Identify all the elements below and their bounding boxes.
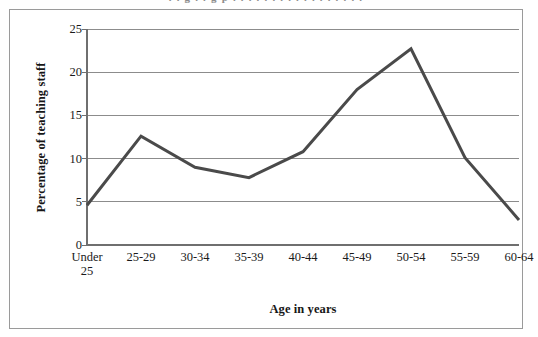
plot-area: [87, 29, 519, 245]
x-axis-tick-labels: Under 2525-2930-3435-3940-4445-4950-5455…: [87, 250, 519, 292]
y-axis-title: Percentage of teaching staff: [32, 29, 50, 245]
x-tick-label: 35-39: [220, 250, 278, 264]
y-tick-label: 20: [58, 66, 82, 79]
y-tick-label: 5: [58, 195, 82, 208]
cropped-chart-title-text: . . g . . g p . . . . . . . . . . . . . …: [0, 0, 532, 3]
x-axis-title: Age in years: [87, 302, 519, 317]
data-series-line: [87, 29, 519, 245]
y-tick-label: 15: [58, 109, 82, 122]
x-tick-label: 40-44: [274, 250, 332, 264]
chart-frame: Percentage of teaching staff 0510152025 …: [9, 9, 523, 329]
y-tick-label: 10: [58, 152, 82, 165]
cropped-chart-title: . . g . . g p . . . . . . . . . . . . . …: [0, 0, 532, 7]
x-tick-label: 60-64: [490, 250, 538, 264]
x-tick-label: 25-29: [112, 250, 170, 264]
x-tick-label: 30-34: [166, 250, 224, 264]
x-tick-label: Under 25: [58, 250, 116, 278]
y-axis-title-text: Percentage of teaching staff: [34, 62, 49, 212]
x-tick-label: 50-54: [382, 250, 440, 264]
y-axis-tick-labels: 0510152025: [58, 29, 82, 245]
x-tick-label: 55-59: [436, 250, 494, 264]
y-tick-label: 25: [58, 23, 82, 36]
x-tick-label: 45-49: [328, 250, 386, 264]
